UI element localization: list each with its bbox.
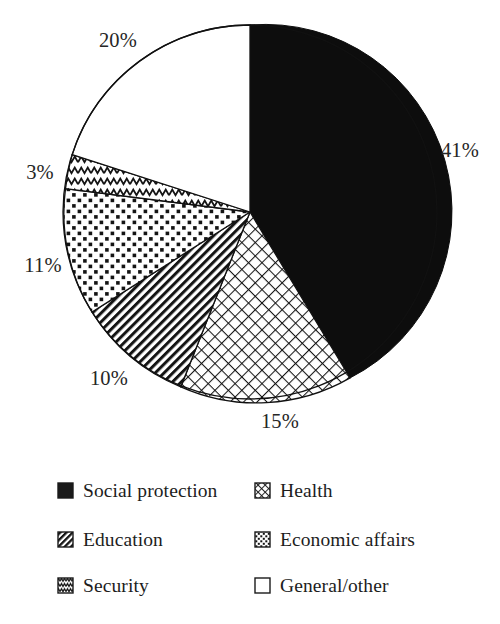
chart-legend: Social protection Health Education Econo… bbox=[58, 480, 415, 596]
pie-chart-figure: 41% 15% 10% 11% 3% 20% Social protection… bbox=[0, 0, 500, 624]
legend-swatch-square-dots-icon bbox=[255, 532, 270, 547]
legend-swatch-crosshatch-icon bbox=[255, 483, 270, 498]
pie-label-security: 3% bbox=[26, 161, 54, 183]
pie-label-general-other: 20% bbox=[99, 29, 137, 51]
pie-label-education: 10% bbox=[90, 367, 128, 389]
legend-item-education[interactable]: Education bbox=[58, 529, 163, 550]
legend-swatch-blank-icon bbox=[255, 578, 270, 593]
legend-label-security: Security bbox=[83, 575, 149, 596]
legend-label-health: Health bbox=[280, 480, 333, 501]
legend-item-health[interactable]: Health bbox=[255, 480, 333, 501]
legend-swatch-diagonal-stripes-icon bbox=[58, 532, 73, 547]
legend-label-economic-affairs: Economic affairs bbox=[280, 529, 415, 550]
legend-label-education: Education bbox=[83, 529, 163, 550]
legend-item-economic-affairs[interactable]: Economic affairs bbox=[255, 529, 415, 550]
legend-item-security[interactable]: Security bbox=[58, 575, 149, 596]
legend-label-social-protection: Social protection bbox=[83, 480, 218, 501]
legend-swatch-zigzag-icon bbox=[58, 578, 73, 593]
legend-item-social-protection[interactable]: Social protection bbox=[58, 480, 218, 501]
pie-label-social-protection: 41% bbox=[441, 139, 479, 161]
pie-label-economic-affairs: 11% bbox=[24, 254, 61, 276]
pie-chart-canvas: 41% 15% 10% 11% 3% 20% Social protection… bbox=[0, 0, 500, 624]
legend-label-general-other: General/other bbox=[280, 575, 389, 596]
legend-item-general-other[interactable]: General/other bbox=[255, 575, 389, 596]
pie-label-health: 15% bbox=[261, 410, 299, 432]
legend-swatch-solid-black-icon bbox=[58, 483, 73, 498]
